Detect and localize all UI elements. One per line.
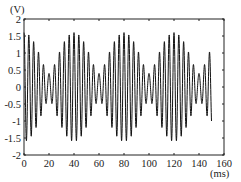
x-tick-label: 40: [69, 158, 80, 169]
x-tick-label: 80: [119, 158, 130, 169]
x-tick-label: 0: [21, 158, 26, 169]
y-tick-label: -1: [12, 116, 21, 127]
x-tick-label: 60: [94, 158, 105, 169]
y-tick-label: 1.5: [8, 31, 21, 42]
y-tick-label: 1: [16, 48, 21, 59]
y-tick-label: 0.5: [8, 65, 21, 76]
plot-area: [24, 33, 212, 141]
chart-svg: 020406080100120140160 21.510.50-0.5-1-1.…: [0, 0, 241, 182]
x-tick-label: 20: [44, 158, 55, 169]
y-axis-label: (V): [10, 4, 25, 16]
x-axis-label: (ms): [210, 168, 230, 180]
x-tick-label: 120: [166, 158, 182, 169]
y-tick-label: -0.5: [4, 99, 21, 110]
y-tick-label: 2: [16, 14, 21, 25]
x-tick-label: 140: [191, 158, 207, 169]
waveform-line: [24, 33, 212, 141]
y-tick-label: -2: [12, 150, 21, 161]
x-tick-label: 100: [141, 158, 157, 169]
beat-signal-chart: 020406080100120140160 21.510.50-0.5-1-1.…: [0, 0, 241, 182]
y-tick-label: 0: [16, 82, 21, 93]
y-tick-label: -1.5: [4, 133, 21, 144]
